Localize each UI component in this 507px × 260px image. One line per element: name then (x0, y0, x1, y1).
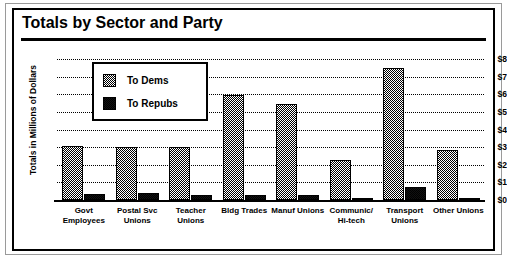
y-axis-tick-label: $1 (463, 177, 507, 187)
y-axis-tick-label: $4 (463, 125, 507, 135)
legend-swatch-repubs (103, 97, 116, 110)
bar-group (218, 59, 272, 200)
x-axis-label-line: Unions (370, 216, 440, 226)
bar-group (325, 59, 379, 200)
bar-group (378, 59, 432, 200)
y-axis-tick-label: $6 (463, 89, 507, 99)
x-axis-label-line: Unions (156, 216, 226, 226)
bar-repubs (138, 193, 159, 200)
bar-dems (383, 68, 404, 200)
x-axis-line (54, 200, 485, 202)
y-axis-tick-label: $2 (463, 160, 507, 170)
y-axis-ticks (0, 59, 52, 200)
bar-repubs (84, 194, 105, 200)
bar-repubs (191, 195, 212, 200)
bar-dems (116, 147, 137, 200)
x-axis-label-line: Other Unions (424, 206, 494, 216)
y-axis-tick-label: $7 (463, 72, 507, 82)
bar-repubs (298, 195, 319, 200)
bar-repubs (405, 187, 426, 200)
y-axis-tick-label: $8 (463, 54, 507, 64)
legend-box: To DemsTo Repubs (92, 62, 208, 121)
bar-repubs (245, 195, 266, 200)
bar-dems (437, 150, 458, 200)
chart-screenshot: Totals by Sector and Party Totals in Mil… (0, 0, 507, 260)
bar-dems (330, 160, 351, 200)
legend-label: To Dems (127, 75, 169, 86)
bar-dems (223, 95, 244, 200)
legend-swatch-dems (103, 74, 116, 87)
bar-dems (62, 146, 83, 200)
x-axis-labels: GovtEmployeesPostal SvcUnionsTeacherUnio… (57, 206, 485, 246)
bar-group (271, 59, 325, 200)
x-axis-category-label: Other Unions (424, 206, 494, 216)
y-axis-tick-label: $0 (463, 195, 507, 205)
bar-dems (276, 104, 297, 200)
bar-repubs (352, 198, 373, 200)
bar-dems (169, 147, 190, 200)
legend-item: To Repubs (103, 94, 178, 112)
y-axis-tick-label: $3 (463, 142, 507, 152)
title-underline (21, 38, 486, 41)
y-axis-tick-label: $5 (463, 107, 507, 117)
chart-title: Totals by Sector and Party (22, 14, 223, 32)
legend-item: To Dems (103, 71, 169, 89)
legend-label: To Repubs (127, 98, 178, 109)
